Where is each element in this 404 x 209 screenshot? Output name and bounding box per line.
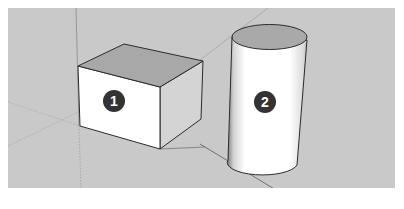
- cylinder-top-face: [232, 25, 307, 50]
- badge-2-label: 2: [261, 94, 269, 110]
- green-axis-line: [8, 111, 80, 146]
- red-axis-dotted: [8, 102, 80, 126]
- ground-line: [160, 147, 205, 149]
- box-object[interactable]: [78, 44, 203, 149]
- badge-1: 1: [103, 90, 125, 112]
- blue-axis-dotted: [79, 126, 81, 190]
- badge-1-label: 1: [110, 93, 118, 109]
- model-scene[interactable]: 1 2: [0, 0, 404, 209]
- badge-2: 2: [254, 91, 276, 113]
